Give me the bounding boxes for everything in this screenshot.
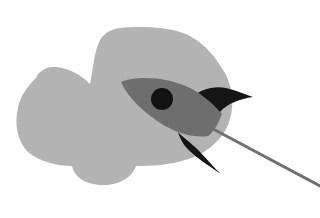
rocket-window	[151, 88, 173, 110]
illustration-svg	[0, 0, 320, 218]
rocket-trail	[215, 130, 320, 186]
rocket-illustration	[0, 0, 320, 218]
